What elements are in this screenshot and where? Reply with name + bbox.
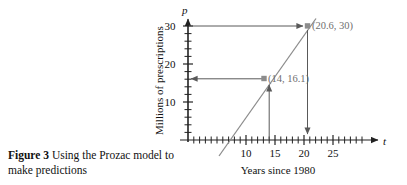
data-point-label-20-6-30: (20.6, 30): [312, 20, 354, 32]
data-point-20-6-30: [305, 23, 310, 28]
model-line: [219, 19, 316, 157]
x-tick-label-25: 25: [328, 147, 340, 159]
x-axis-variable-label: t: [383, 135, 387, 147]
y-tick-label-20: 20: [165, 58, 177, 70]
data-point-14-16-1: [261, 76, 266, 81]
data-point-label-14-16-1: (14, 16.1): [268, 73, 310, 85]
y-tick-label-10: 10: [165, 96, 177, 108]
prozac-prediction-chart: Millions of prescriptions p t: [150, 0, 407, 185]
x-axis-title: Years since 1980: [241, 164, 316, 176]
x-tick-label-20: 20: [299, 147, 311, 159]
y-axis-title: Millions of prescriptions: [153, 26, 165, 135]
y-tick-label-30: 30: [165, 20, 177, 32]
y-axis-variable-label: p: [181, 4, 188, 16]
x-tick-label-10: 10: [241, 147, 253, 159]
figure-container: Figure 3 Using the Prozac model to make …: [0, 0, 407, 185]
x-tick-label-15: 15: [270, 147, 282, 159]
figure-caption-label: Figure 3: [8, 149, 49, 161]
